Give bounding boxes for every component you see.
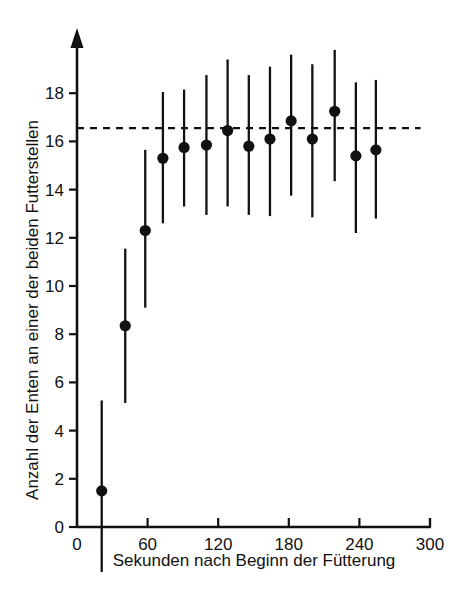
data-point-marker: [307, 133, 318, 144]
x-axis-title: Sekunden nach Beginn der Fütterung: [113, 551, 396, 570]
data-point-marker: [350, 150, 361, 161]
data-point-marker: [286, 115, 297, 126]
y-axis-tick-label: 6: [55, 373, 64, 392]
data-point-marker: [222, 125, 233, 136]
x-axis-ticks-group: 060120180240300: [72, 518, 444, 554]
y-axis-tick-label: 8: [55, 325, 64, 344]
data-point-marker: [201, 139, 212, 150]
data-point-marker: [329, 106, 340, 117]
y-axis-title: Anzahl der Enten an einer der beiden Fut…: [23, 120, 42, 500]
data-point-marker: [243, 141, 254, 152]
y-axis-tick-label: 16: [45, 132, 64, 151]
y-axis-tick-label: 14: [45, 181, 64, 200]
y-axis-tick-label: 2: [55, 470, 64, 489]
data-point-markers-group: [96, 106, 381, 497]
chart-figure: 024681012141618 060120180240300 Sekunden…: [0, 0, 469, 605]
y-axis-tick-label: 12: [45, 229, 64, 248]
y-axis-arrowhead-icon: [71, 28, 84, 48]
data-point-marker: [370, 144, 381, 155]
y-axis-tick-label: 4: [55, 422, 64, 441]
scatter-plot-with-error-bars: 024681012141618 060120180240300 Sekunden…: [0, 0, 469, 605]
data-point-marker: [157, 153, 168, 164]
data-point-marker: [264, 133, 275, 144]
data-point-marker: [140, 225, 151, 236]
y-axis-tick-label: 0: [55, 518, 64, 537]
y-axis-tick-label: 10: [45, 277, 64, 296]
data-point-marker: [178, 142, 189, 153]
y-axis-ticks-group: 024681012141618: [45, 84, 77, 537]
data-point-marker: [120, 320, 131, 331]
x-axis-tick-label: 0: [72, 535, 81, 554]
x-axis-tick-label: 300: [416, 535, 444, 554]
data-point-marker: [96, 485, 107, 496]
y-axis-tick-label: 18: [45, 84, 64, 103]
